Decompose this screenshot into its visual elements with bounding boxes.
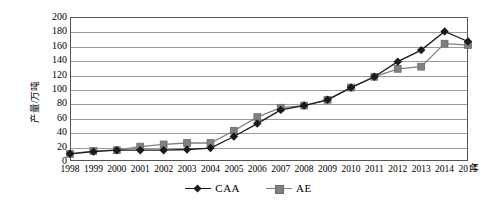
legend-label: CAA (215, 182, 240, 194)
series-layer (70, 17, 468, 161)
series-line-caa (70, 31, 468, 153)
x-axis-tick-label: 2010 (341, 163, 360, 175)
x-axis-tick-label: 2014 (435, 163, 454, 175)
legend-label: AE (296, 182, 312, 194)
x-axis-tick-label: 2000 (107, 163, 126, 175)
y-axis-tick-label: 100 (52, 84, 67, 94)
series-line-ae (70, 44, 468, 154)
y-axis-tick-label: 140 (52, 55, 67, 65)
chart-legend: CAAAE (0, 182, 497, 194)
data-point-ae (441, 40, 448, 47)
x-axis-ticks: 1998199920002001200220032004200520062007… (70, 163, 468, 179)
x-axis-tick-label: 2008 (295, 163, 314, 175)
x-axis-tick-label: 2001 (131, 163, 150, 175)
x-axis-tick-label: 2011 (365, 163, 384, 175)
y-axis-tick-label: 40 (57, 127, 67, 137)
legend-marker-square-icon (266, 183, 292, 193)
x-axis-tick-label: 2002 (154, 163, 173, 175)
y-axis-tick-label: 160 (52, 41, 67, 51)
y-axis-tick-label: 20 (57, 142, 67, 152)
x-axis-tick-label: 2003 (178, 163, 197, 175)
data-point-ae (394, 65, 401, 72)
y-axis-tick-label: 120 (52, 70, 67, 80)
legend-marker-diamond-icon (185, 183, 211, 193)
line-chart: 产量/万吨 200180160140120100806040200 199819… (0, 0, 497, 203)
x-axis-tick-label: 2006 (248, 163, 267, 175)
y-axis-ticks: 200180160140120100806040200 (0, 0, 70, 178)
x-axis-tick-label: 2012 (388, 163, 407, 175)
x-axis-tick-label: 2013 (412, 163, 431, 175)
x-axis-tick-label: 1999 (84, 163, 103, 175)
legend-item-caa[interactable]: CAA (185, 182, 240, 194)
x-axis-tick-label: 2009 (318, 163, 337, 175)
data-point-caa (394, 57, 402, 65)
y-axis-tick-label: 80 (57, 98, 67, 108)
y-axis-tick-label: 60 (57, 113, 67, 123)
x-axis-tick-label: 2005 (224, 163, 243, 175)
y-axis-tick-label: 180 (52, 26, 67, 36)
x-axis-tick-label: 2007 (271, 163, 290, 175)
x-axis-unit-label: 年 (470, 162, 479, 174)
x-axis-tick-label: 1998 (61, 163, 80, 175)
legend-item-ae[interactable]: AE (266, 182, 312, 194)
data-point-ae (418, 63, 425, 70)
y-axis-tick-label: 200 (52, 12, 67, 22)
x-axis-tick-label: 2004 (201, 163, 220, 175)
